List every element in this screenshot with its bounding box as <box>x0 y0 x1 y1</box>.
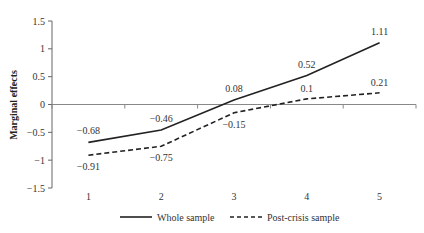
legend: Whole samplePost-crisis sample <box>120 212 340 223</box>
data-label-post-crisis-sample: −0.75 <box>150 152 173 163</box>
data-label-whole-sample: −0.68 <box>77 125 100 136</box>
y-tick-label: −1 <box>34 155 45 166</box>
y-tick-label: 0 <box>40 99 45 110</box>
x-tick-label: 1 <box>86 191 91 202</box>
data-label-post-crisis-sample: −0.91 <box>77 161 100 172</box>
legend-label-post-crisis-sample: Post-crisis sample <box>267 212 340 223</box>
y-tick-label: 1 <box>40 43 45 54</box>
data-label-post-crisis-sample: 0.21 <box>371 77 389 88</box>
x-tick-label: 2 <box>159 191 164 202</box>
data-label-whole-sample: 0.08 <box>225 83 243 94</box>
y-tick-label: 1.5 <box>33 16 46 27</box>
x-tick-label: 4 <box>304 191 309 202</box>
legend-label-whole-sample: Whole sample <box>157 212 215 223</box>
x-tick-label: 3 <box>232 191 237 202</box>
data-label-whole-sample: −0.46 <box>150 113 173 124</box>
series-group <box>88 43 379 156</box>
y-tick-label: −1.5 <box>27 183 45 194</box>
data-label-whole-sample: 0.52 <box>298 59 316 70</box>
data-label-post-crisis-sample: 0.1 <box>301 83 314 94</box>
data-label-whole-sample: 1.11 <box>371 26 388 37</box>
axes: −1.5−1−0.500.511.512345 <box>27 16 416 203</box>
data-label-post-crisis-sample: −0.15 <box>222 119 245 130</box>
y-tick-label: 0.5 <box>33 71 46 82</box>
line-chart: Marginal effects −1.5−1−0.500.511.512345… <box>0 0 424 233</box>
x-tick-label: 5 <box>377 191 382 202</box>
y-axis-label: Marginal effects <box>8 70 19 140</box>
y-tick-label: −0.5 <box>27 127 45 138</box>
